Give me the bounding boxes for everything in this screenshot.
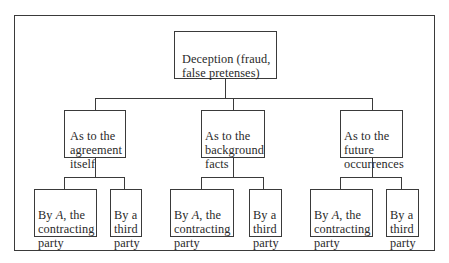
- leaf-agreement-by-a: By A, the contracting party: [34, 189, 97, 237]
- leaf-future-third-party: By a third party: [386, 189, 419, 237]
- connector-future-stem: [372, 158, 373, 177]
- leaf-agreement-third-party: By a third party: [110, 189, 142, 237]
- node-background-facts: As to the background facts: [201, 110, 265, 158]
- leaf-label-pre: By: [38, 208, 56, 222]
- leaf-background-third-party: By a third party: [249, 189, 282, 237]
- connector-level2-bar: [95, 98, 373, 99]
- root-label: Deception (fraud, false pretenses): [182, 52, 270, 80]
- leaf-future-by-a: By A, the contracting party: [310, 189, 373, 237]
- connector-background-bar: [201, 177, 264, 178]
- connector-future-right: [401, 177, 402, 189]
- connector-agreement-stem: [95, 158, 96, 177]
- connector-root-stem: [225, 79, 226, 98]
- connector-future-bar: [340, 177, 402, 178]
- connector-background-stem: [233, 158, 234, 177]
- leaf-label-pre: By: [314, 208, 332, 222]
- connector-to-background: [233, 98, 234, 110]
- node-future-occurrences: As to the future occurrences: [340, 110, 403, 158]
- connector-agreement-left: [64, 177, 65, 189]
- root-node-deception: Deception (fraud, false pretenses): [174, 31, 277, 79]
- connector-background-left: [201, 177, 202, 189]
- connector-to-agreement: [95, 98, 96, 110]
- connector-to-future: [372, 98, 373, 110]
- connector-agreement-bar: [64, 177, 125, 178]
- connector-background-right: [263, 177, 264, 189]
- node-agreement-itself: As to the agreement itself: [64, 110, 126, 158]
- leaf-label: By a third party: [253, 208, 279, 250]
- leaf-label: By a third party: [114, 208, 140, 250]
- leaf-label-pre: By: [174, 208, 192, 222]
- leaf-label: By a third party: [390, 208, 416, 250]
- connector-agreement-right: [124, 177, 125, 189]
- leaf-background-by-a: By A, the contracting party: [170, 189, 234, 237]
- node-label: As to the future occurrences: [344, 129, 404, 171]
- connector-future-left: [340, 177, 341, 189]
